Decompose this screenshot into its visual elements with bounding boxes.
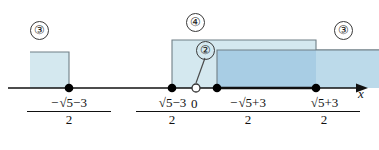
tick-label-1-denominator: 2 [27, 112, 111, 127]
tick-label-3-numerator: −√5+3 [206, 96, 290, 112]
sqrt-icon-2: √5 [158, 96, 173, 110]
callout-badge-left-3: ③ [30, 21, 49, 40]
point-closed-2 [168, 84, 177, 93]
point-closed-1 [65, 84, 74, 93]
tick-label-3: −√5+3 2 [206, 96, 290, 126]
point-closed-4 [312, 84, 321, 93]
sqrt-icon-4: √5 [310, 96, 325, 110]
origin-label: 0 [191, 96, 198, 112]
sqrt-icon-1: √5 [58, 96, 73, 110]
tick-label-4-numerator: √5+3 [288, 96, 360, 112]
tick-label-4: √5+3 2 [288, 96, 360, 126]
point-closed-3 [213, 84, 222, 93]
band-two [217, 50, 379, 88]
axis-label-x: x [358, 86, 364, 102]
callout-badge-two: ② [196, 41, 215, 60]
callout-badge-right-3: ③ [334, 21, 353, 40]
point-open-origin [192, 84, 200, 92]
callout-badge-four: ④ [186, 13, 205, 32]
tick-label-1: −√5−3 2 [27, 96, 111, 126]
sqrt-icon-3: √5 [237, 96, 252, 110]
tick-label-2-denominator: 2 [136, 112, 208, 127]
tick-label-4-denominator: 2 [288, 112, 360, 127]
tick-label-1-numerator: −√5−3 [27, 96, 111, 112]
tick-label-3-denominator: 2 [206, 112, 290, 127]
band-left-3 [30, 52, 69, 88]
figure-canvas: ③ ④ ② ③ −√5−3 2 √5−3 2 0 −√5+3 2 √5+3 2 … [0, 0, 379, 150]
